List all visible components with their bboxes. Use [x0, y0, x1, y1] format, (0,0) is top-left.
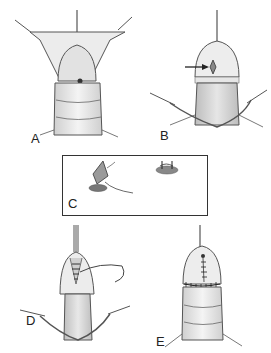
- panel-d-label: D: [26, 313, 35, 328]
- panel-a-label: A: [31, 131, 40, 146]
- panel-b-label: B: [160, 128, 169, 143]
- panel-c-label: C: [68, 196, 77, 211]
- panel-e-label: E: [156, 334, 165, 349]
- surgical-illustration-figure: A B: [0, 0, 271, 353]
- panel-e-illustration: [150, 222, 265, 352]
- panel-d-illustration: [10, 222, 135, 352]
- panel-a-illustration: [10, 5, 135, 150]
- panel-c-inset-box: C: [62, 155, 208, 216]
